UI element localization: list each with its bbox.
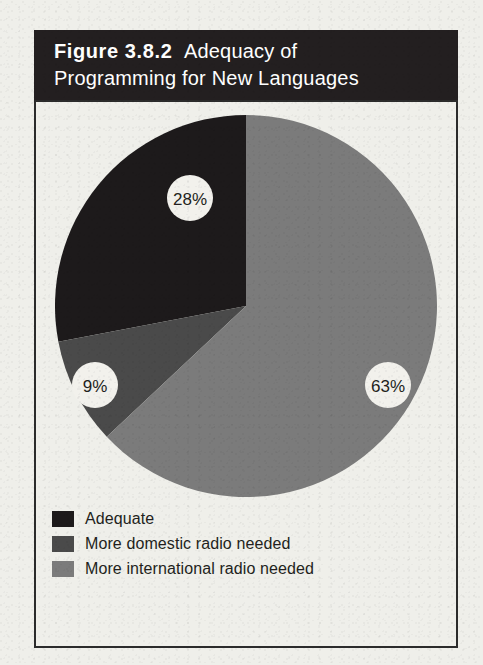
legend-item-more-international-radio-needed: More international radio needed xyxy=(52,556,314,581)
legend-item-more-domestic-radio-needed: More domestic radio needed xyxy=(52,531,314,556)
pie-slice-group xyxy=(55,115,437,497)
pie-chart: 28%9%63% xyxy=(55,115,437,498)
legend-item-adequate: Adequate xyxy=(52,506,314,531)
pie-value-label: 9% xyxy=(83,377,108,396)
legend-label-more-international-radio-needed: More international radio needed xyxy=(85,560,314,578)
pie-chart-svg: 28%9%63% xyxy=(55,115,437,498)
legend-swatch-more-international-radio-needed xyxy=(52,561,74,577)
figure-title-line-2: Programming for New Languages xyxy=(54,65,458,92)
figure-title-banner: Figure 3.8.2 Adequacy of Programming for… xyxy=(34,30,458,100)
pie-value-label: 63% xyxy=(371,377,405,396)
pie-slice xyxy=(55,115,246,342)
legend-label-adequate: Adequate xyxy=(85,510,154,528)
legend-swatch-more-domestic-radio-needed xyxy=(52,536,74,552)
chart-legend: Adequate More domestic radio needed More… xyxy=(52,506,314,581)
figure-title-text-line-1: Adequacy of xyxy=(184,40,297,62)
pie-value-label: 28% xyxy=(173,190,207,209)
figure-title-line-1: Figure 3.8.2 Adequacy of xyxy=(54,38,458,65)
legend-label-more-domestic-radio-needed: More domestic radio needed xyxy=(85,535,290,553)
legend-swatch-adequate xyxy=(52,511,74,527)
figure-number-label: Figure 3.8.2 xyxy=(54,40,172,62)
figure-container: Figure 3.8.2 Adequacy of Programming for… xyxy=(0,0,483,665)
